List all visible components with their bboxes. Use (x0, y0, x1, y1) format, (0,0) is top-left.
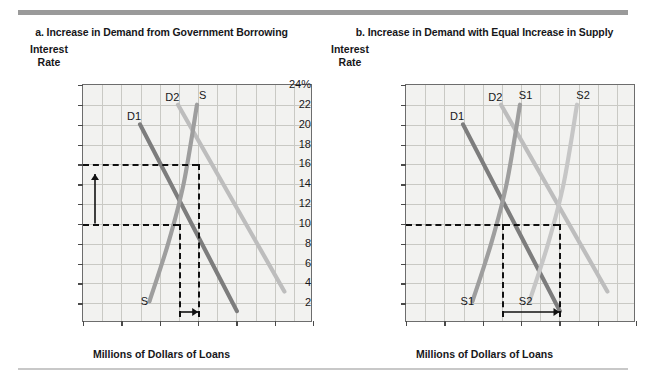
equilibrium-dashed-vertical (198, 164, 200, 317)
curve-label-s: S (199, 89, 206, 101)
x-axis-tick-mark (444, 321, 445, 326)
curve-s1 (473, 105, 521, 302)
x-axis-tick-mark (83, 321, 84, 326)
curve-label-d2: D2 (488, 91, 502, 103)
x-axis-tick-mark (313, 321, 314, 326)
y-axis-tick-label: 12 (265, 197, 311, 209)
rate-increase-arrow (87, 166, 103, 232)
y-axis-tick-label: 14 (265, 177, 311, 189)
y-axis-label-line1: Interest (18, 43, 80, 56)
y-axis-tick-label: 18 (265, 138, 311, 150)
equilibrium-dashed-vertical (502, 224, 504, 317)
x-axis-tick-mark (521, 321, 522, 326)
panel-b-plot-area: 24681012141618202224%0100200300400500600… (405, 84, 635, 322)
x-axis-tick-mark (198, 321, 199, 326)
x-axis-tick-mark (406, 321, 407, 326)
y-axis-label-line2: Rate (18, 56, 80, 69)
x-axis-tick-mark (121, 321, 122, 326)
y-axis-tick-label: 20 (265, 118, 311, 130)
y-axis-tick-label: 8 (265, 237, 311, 249)
curve-label-s2: S2 (576, 89, 589, 101)
x-axis-tick-mark (236, 321, 237, 326)
y-axis-tick-label: 10 (265, 217, 311, 229)
y-axis-label-line2: Rate (319, 56, 381, 69)
curve-s (150, 105, 198, 302)
panel-a-x-axis-label: Millions of Dollars of Loans (0, 348, 323, 360)
x-axis-tick-mark (275, 321, 276, 326)
quantity-shift-arrow (171, 304, 206, 320)
curve-label-s: S (141, 295, 148, 307)
panel-b-y-axis-label: Interest Rate (319, 43, 381, 68)
panel-b-title: b. Increase in Demand with Equal Increas… (323, 26, 646, 38)
x-axis-tick-mark (160, 321, 161, 326)
y-axis-tick-label: 16 (265, 157, 311, 169)
equilibrium-dashed-vertical (559, 224, 561, 317)
panel-a-y-axis-label: Interest Rate (18, 43, 80, 68)
y-axis-tick-label: 6 (265, 257, 311, 269)
y-axis-label-line1: Interest (319, 43, 381, 56)
x-axis-tick-mark (636, 321, 637, 326)
curve-label-d1: D1 (450, 110, 464, 122)
curve-label-s1: S1 (519, 89, 532, 101)
x-axis-tick-mark (559, 321, 560, 326)
y-axis-tick-label: 2 (265, 296, 311, 308)
x-axis-tick-mark (483, 321, 484, 326)
curve-label-d2: D2 (165, 91, 179, 103)
panel-a-title: a. Increase in Demand from Government Bo… (0, 26, 323, 38)
x-axis-tick-mark (598, 321, 599, 326)
curve-label-d1: D1 (127, 110, 141, 122)
y-axis-tick-label: 24% (265, 78, 311, 90)
panel-b-x-axis-label: Millions of Dollars of Loans (323, 348, 646, 360)
curves-layer (406, 85, 634, 321)
curve-s2 (530, 105, 578, 302)
equilibrium-dashed-horizontal (406, 224, 559, 226)
chart-panel-b: b. Increase in Demand with Equal Increas… (323, 0, 646, 377)
equilibrium-dashed-vertical (179, 224, 181, 317)
curve-label-s1: S1 (461, 295, 474, 307)
y-axis-tick-label: 4 (265, 276, 311, 288)
quantity-shift-arrow (494, 304, 568, 320)
y-axis-tick-label: 22 (265, 98, 311, 110)
